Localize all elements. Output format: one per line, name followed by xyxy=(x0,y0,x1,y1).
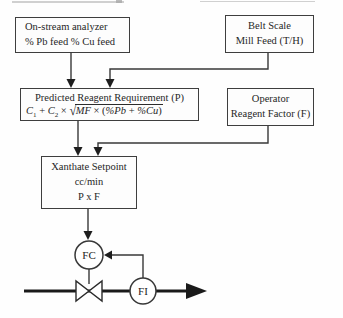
arrow-xanthate-to-fc xyxy=(84,209,93,240)
flow-controller-bubble: FC xyxy=(75,241,103,269)
process-control-diagram: On-stream analyzer % Pb feed % Cu feed B… xyxy=(0,0,343,318)
flow-line xyxy=(24,283,207,299)
fc-label: FC xyxy=(82,249,95,261)
flow-arrowhead xyxy=(186,283,207,299)
arrow-operator-to-xanthate xyxy=(94,126,269,156)
arrow-beltscale-to-predicted xyxy=(106,53,269,88)
arrow-predicted-to-xanthate xyxy=(74,121,83,156)
arrow-fi-to-fc xyxy=(104,251,143,279)
arrow-analyzer-to-predicted xyxy=(67,52,76,88)
diagram-connectors: FC FI xyxy=(0,0,343,318)
flow-indicator-bubble: FI xyxy=(130,278,156,304)
fi-label: FI xyxy=(138,285,148,297)
